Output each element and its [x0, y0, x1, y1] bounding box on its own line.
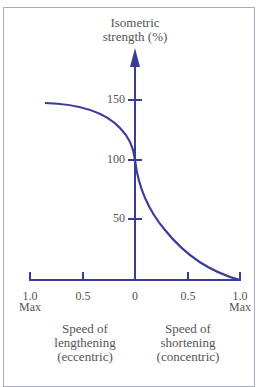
x-tick-label-left-max: 1.0 Max — [15, 291, 45, 313]
x-tick-label-right-max: 1.0 Max — [225, 291, 255, 313]
y-axis-label-line1: Isometric — [85, 16, 185, 30]
y-tick-label-100: 100 — [95, 152, 125, 167]
y-axis-label: Isometric strength (%) — [85, 16, 185, 44]
x-label-eccentric: Speed of lengthening (eccentric) — [35, 322, 135, 364]
x-label-eccentric-line2: lengthening — [35, 336, 135, 350]
x-tick-label-left-half: 0.5 — [68, 291, 98, 302]
x-label-concentric-line2: shortening — [138, 336, 238, 350]
x-tick-sub: Max — [225, 302, 255, 313]
y-tick-label-150: 150 — [95, 92, 125, 107]
x-tick-sub: Max — [15, 302, 45, 313]
y-tick-label-50: 50 — [95, 211, 125, 226]
x-tick-label-zero: 0 — [120, 291, 150, 302]
force-velocity-curve — [45, 103, 240, 280]
x-tick-label-right-half: 0.5 — [173, 291, 203, 302]
y-axis-label-line2: strength (%) — [85, 30, 185, 44]
x-label-concentric: Speed of shortening (concentric) — [138, 322, 238, 364]
x-label-concentric-line3: (concentric) — [138, 350, 238, 364]
y-axis-arrow-icon — [130, 48, 140, 67]
x-label-concentric-line1: Speed of — [138, 322, 238, 336]
x-label-eccentric-line1: Speed of — [35, 322, 135, 336]
x-label-eccentric-line3: (eccentric) — [35, 350, 135, 364]
